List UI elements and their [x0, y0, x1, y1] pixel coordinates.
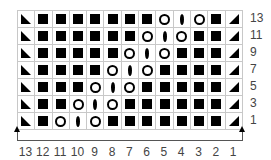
chart-cell	[122, 62, 139, 79]
filled-square-icon	[73, 31, 83, 41]
chart-cell	[104, 28, 121, 45]
column-label: 4	[173, 145, 190, 159]
filled-square-icon	[38, 82, 48, 92]
row-label: 7	[250, 61, 257, 78]
chart-cell	[139, 62, 156, 79]
chart-cell	[104, 45, 121, 62]
filled-square-icon	[211, 31, 221, 41]
chart-cell	[208, 79, 225, 96]
column-label: 3	[190, 145, 207, 159]
filled-square-icon	[73, 65, 83, 75]
column-label: 8	[104, 145, 121, 159]
chart-cell	[174, 79, 191, 96]
filled-square-icon	[177, 82, 187, 92]
filled-square-icon	[211, 48, 221, 58]
filled-square-icon	[108, 14, 118, 24]
filled-square-icon	[56, 65, 66, 75]
leaf-oval-icon	[111, 82, 115, 93]
chart-cell	[208, 11, 225, 28]
chart-cell	[35, 113, 52, 130]
open-circle-icon	[55, 116, 66, 127]
filled-square-icon	[177, 116, 187, 126]
chart-cell	[208, 28, 225, 45]
chart-cell	[156, 113, 173, 130]
chart-cell	[53, 45, 70, 62]
open-circle-icon	[142, 65, 153, 76]
filled-square-icon	[90, 14, 100, 24]
chart-cell	[174, 96, 191, 113]
triangle-left-icon	[21, 99, 31, 109]
column-label: 10	[69, 145, 86, 159]
chart-cell	[35, 11, 52, 28]
filled-square-icon	[211, 82, 221, 92]
chart-cell	[139, 113, 156, 130]
filled-square-icon	[56, 82, 66, 92]
chart-cell	[70, 28, 87, 45]
chart-cell	[53, 11, 70, 28]
filled-square-icon	[194, 48, 204, 58]
chart-cell	[87, 96, 104, 113]
triangle-left-icon	[21, 116, 31, 126]
chart-cell	[70, 96, 87, 113]
filled-square-icon	[73, 82, 83, 92]
filled-square-icon	[108, 31, 118, 41]
chart-cell	[53, 96, 70, 113]
chart-cell	[87, 11, 104, 28]
chart-cell	[226, 96, 243, 113]
chart-cell	[191, 79, 208, 96]
triangle-right-icon	[229, 99, 239, 109]
chart-cell	[87, 62, 104, 79]
triangle-right-icon	[229, 65, 239, 75]
open-circle-icon	[90, 116, 101, 127]
triangle-left-icon	[21, 14, 31, 24]
chart-cell	[174, 11, 191, 28]
repeat-baseline	[17, 140, 242, 141]
chart-cell	[53, 79, 70, 96]
open-circle-icon	[194, 14, 205, 25]
leaf-oval-icon	[145, 48, 149, 59]
chart-cell	[156, 62, 173, 79]
chart-cell	[226, 62, 243, 79]
chart-cell	[70, 11, 87, 28]
chart-cell	[208, 96, 225, 113]
chart-cell	[191, 11, 208, 28]
leaf-oval-icon	[76, 116, 80, 127]
column-label: 13	[17, 145, 34, 159]
filled-square-icon	[125, 14, 135, 24]
open-circle-icon	[124, 48, 135, 59]
leaf-oval-icon	[93, 99, 97, 110]
filled-square-icon	[160, 116, 170, 126]
filled-square-icon	[108, 48, 118, 58]
filled-square-icon	[108, 116, 118, 126]
chart-cell	[191, 62, 208, 79]
filled-square-icon	[142, 99, 152, 109]
column-label: 5	[155, 145, 172, 159]
chart-cell	[18, 96, 35, 113]
filled-square-icon	[38, 48, 48, 58]
chart-cell	[104, 113, 121, 130]
triangle-right-icon	[229, 116, 239, 126]
arrow-up-icon	[14, 126, 20, 132]
chart-cell	[191, 28, 208, 45]
chart-cell	[139, 79, 156, 96]
open-circle-icon	[142, 31, 153, 42]
filled-square-icon	[194, 99, 204, 109]
filled-square-icon	[211, 116, 221, 126]
row-label: 13	[250, 10, 263, 27]
arrow-up-icon	[239, 126, 245, 132]
filled-square-icon	[56, 14, 66, 24]
filled-square-icon	[211, 99, 221, 109]
filled-square-icon	[160, 99, 170, 109]
knitting-chart-grid	[17, 10, 243, 130]
filled-square-icon	[142, 82, 152, 92]
chart-cell	[226, 11, 243, 28]
row-label: 5	[250, 78, 257, 95]
chart-cell	[18, 28, 35, 45]
chart-cell	[104, 11, 121, 28]
triangle-right-icon	[229, 14, 239, 24]
chart-cell	[18, 113, 35, 130]
chart-cell	[122, 11, 139, 28]
chart-cell	[174, 28, 191, 45]
chart-cell	[122, 79, 139, 96]
open-circle-icon	[176, 31, 187, 42]
